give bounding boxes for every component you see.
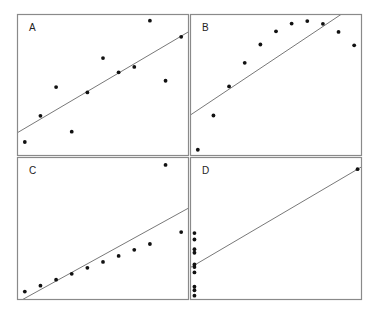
data-point — [352, 43, 356, 47]
regression-line — [17, 208, 189, 303]
data-point — [193, 285, 197, 289]
data-point — [101, 56, 105, 60]
data-point — [193, 271, 197, 275]
data-point — [148, 242, 152, 246]
data-point — [227, 85, 231, 89]
scatter-panel-c: C — [17, 158, 189, 303]
data-point — [193, 238, 197, 242]
scatter-panel-b: B — [190, 0, 362, 155]
data-point — [164, 163, 168, 167]
data-point — [356, 167, 360, 171]
data-point — [321, 22, 325, 26]
data-point — [258, 43, 262, 47]
data-point — [117, 254, 121, 258]
data-point — [196, 148, 200, 152]
data-point — [274, 29, 278, 33]
data-point — [39, 284, 43, 288]
data-point — [23, 140, 27, 144]
panel-frame — [191, 158, 362, 300]
panel-label: A — [29, 22, 36, 33]
data-point — [193, 294, 197, 298]
data-point — [54, 85, 58, 89]
data-point — [212, 114, 216, 118]
data-point — [70, 130, 74, 134]
anscombe-quartet-figure: ABCD — [0, 0, 379, 312]
data-point — [337, 30, 341, 34]
data-point — [193, 251, 197, 255]
data-point — [23, 290, 27, 294]
data-point — [290, 22, 294, 26]
data-point — [148, 19, 152, 23]
data-point — [132, 65, 136, 69]
data-point — [179, 230, 183, 234]
data-point — [243, 61, 247, 65]
data-point — [132, 248, 136, 252]
data-point — [85, 266, 89, 270]
panel-frame — [18, 158, 189, 300]
data-point — [179, 35, 183, 39]
data-point — [39, 114, 43, 118]
data-point — [305, 19, 309, 23]
data-point — [193, 231, 197, 235]
regression-line — [190, 0, 362, 115]
regression-line — [190, 167, 362, 268]
panel-label: B — [202, 22, 209, 33]
data-point — [164, 79, 168, 83]
panel-frame — [191, 15, 362, 156]
panel-label: D — [202, 165, 209, 176]
data-point — [193, 247, 197, 251]
data-point — [193, 288, 197, 292]
scatter-panel-d: D — [190, 158, 362, 300]
data-point — [85, 90, 89, 94]
panel-frame — [18, 15, 189, 156]
data-point — [54, 278, 58, 282]
scatter-grid: ABCD — [0, 0, 379, 312]
data-point — [101, 260, 105, 264]
data-point — [117, 70, 121, 74]
data-point — [70, 272, 74, 276]
scatter-panel-a: A — [17, 15, 189, 156]
data-point — [193, 265, 197, 269]
regression-line — [17, 32, 189, 133]
panel-label: C — [29, 165, 36, 176]
